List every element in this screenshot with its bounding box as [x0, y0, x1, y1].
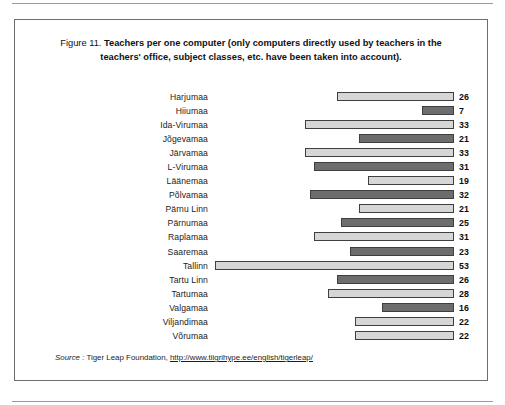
bar [337, 92, 454, 101]
bar-row: Tallinn53 [15, 259, 489, 273]
bar-track [215, 273, 454, 287]
bar-category-label: Harjumaa [15, 92, 215, 102]
bar-track [215, 301, 454, 315]
bar-value-label: 33 [454, 120, 486, 130]
bar [350, 247, 454, 256]
bar-category-label: Raplamaa [15, 232, 215, 242]
bar-row: Võrumaa22 [15, 329, 489, 343]
bar-category-label: Hiiumaa [15, 106, 215, 116]
bar-track [215, 216, 454, 230]
bar-row: Saaremaa23 [15, 245, 489, 259]
bar-row: Raplamaa31 [15, 230, 489, 244]
bar-category-label: Tartu Linn [15, 275, 215, 285]
bar-category-label: Põlvamaa [15, 190, 215, 200]
bar-value-label: 23 [454, 247, 486, 257]
bar [215, 261, 454, 270]
bar-category-label: Tartumaa [15, 289, 215, 299]
bar-row: Pärnumaa25 [15, 216, 489, 230]
bar-value-label: 32 [454, 190, 486, 200]
bar [341, 218, 454, 227]
bar-row: Hiiumaa7 [15, 104, 489, 118]
bar-value-label: 33 [454, 148, 486, 158]
bar-value-label: 53 [454, 261, 486, 271]
page-top-rule [12, 3, 493, 4]
bar [359, 204, 454, 213]
bar-track [215, 329, 454, 343]
bar-row: Pärnu Linn21 [15, 202, 489, 216]
bar-track [215, 132, 454, 146]
bar-track [215, 202, 454, 216]
bar-value-label: 7 [454, 106, 486, 116]
bar-row: Järvamaa33 [15, 146, 489, 160]
bar-row: L-Virumaa31 [15, 160, 489, 174]
bar-value-label: 25 [454, 218, 486, 228]
figure-caption: Figure 11. Teachers per one computer (on… [41, 37, 461, 64]
bar-category-label: L-Virumaa [15, 162, 215, 172]
bar-track [215, 174, 454, 188]
bar-track [215, 287, 454, 301]
bar-row: Valgamaa16 [15, 301, 489, 315]
bar-category-label: Saaremaa [15, 247, 215, 257]
bar-track [215, 230, 454, 244]
bar-row: Tartumaa28 [15, 287, 489, 301]
source-label: Source : [55, 353, 84, 362]
bar-value-label: 19 [454, 176, 486, 186]
bar [310, 190, 454, 199]
bar-category-label: Ida-Virumaa [15, 120, 215, 130]
bar-value-label: 26 [454, 275, 486, 285]
bar-category-label: Pärnu Linn [15, 204, 215, 214]
bar-chart: Harjumaa26Hiiumaa7Ida-Virumaa33Jõgevamaa… [15, 90, 489, 343]
bar-row: Viljandimaa22 [15, 315, 489, 329]
bar-track [215, 188, 454, 202]
bar-category-label: Viljandimaa [15, 317, 215, 327]
bar-category-label: Läänemaa [15, 176, 215, 186]
source-url[interactable]: http://www.tiigrihype.ee/english/tigerle… [170, 353, 313, 362]
bar-value-label: 16 [454, 303, 486, 313]
bar-row: Jõgevamaa21 [15, 132, 489, 146]
bar [368, 176, 454, 185]
page-bottom-rule [12, 401, 493, 402]
bar [314, 232, 454, 241]
figure-title: Teachers per one computer (only computer… [100, 38, 441, 62]
bar-row: Tartu Linn26 [15, 273, 489, 287]
bar-value-label: 21 [454, 134, 486, 144]
bar-value-label: 31 [454, 162, 486, 172]
bar-track [215, 259, 454, 273]
bar [305, 120, 454, 129]
source-publisher: Tiger Leap Foundation, [86, 353, 167, 362]
bar [328, 289, 454, 298]
bar [314, 162, 454, 171]
bar [359, 134, 454, 143]
bar-category-label: Valgamaa [15, 303, 215, 313]
bar [382, 303, 454, 312]
bar [305, 148, 454, 157]
bar [355, 317, 454, 326]
bar [337, 275, 454, 284]
bar-track [215, 118, 454, 132]
bar [355, 331, 454, 340]
bar-row: Harjumaa26 [15, 90, 489, 104]
bar-row: Läänemaa19 [15, 174, 489, 188]
bar-category-label: Jõgevamaa [15, 134, 215, 144]
bar-category-label: Järvamaa [15, 148, 215, 158]
bar-category-label: Tallinn [15, 261, 215, 271]
source-note: Source : Tiger Leap Foundation, http://w… [55, 353, 313, 362]
bar [422, 106, 454, 115]
figure-label: Figure 11. [60, 38, 101, 48]
figure-container: Figure 11. Teachers per one computer (on… [14, 19, 488, 381]
bar-track [215, 104, 454, 118]
bar-track [215, 90, 454, 104]
bar-track [215, 315, 454, 329]
bar-row: Ida-Virumaa33 [15, 118, 489, 132]
bar-value-label: 22 [454, 331, 486, 341]
bar-value-label: 31 [454, 232, 486, 242]
bar-value-label: 28 [454, 289, 486, 299]
bar-category-label: Võrumaa [15, 331, 215, 341]
bar-value-label: 26 [454, 92, 486, 102]
bar-value-label: 22 [454, 317, 486, 327]
bar-category-label: Pärnumaa [15, 218, 215, 228]
bar-track [215, 245, 454, 259]
bar-value-label: 21 [454, 204, 486, 214]
bar-row: Põlvamaa32 [15, 188, 489, 202]
bar-track [215, 146, 454, 160]
